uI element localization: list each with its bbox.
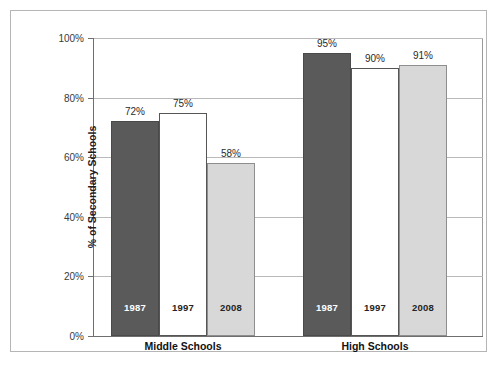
bar-year-label: 1987 [112,302,158,313]
bar-high-schools-2008[interactable]: 2008 [399,65,447,336]
y-tick-label: 20% [64,271,84,282]
bar-middle-schools-2008[interactable]: 2008 [207,163,255,336]
bar-high-schools-1997[interactable]: 1997 [351,68,399,336]
group-label-high-schools: High Schools [341,340,408,352]
y-tick-label: 60% [64,152,84,163]
bar-year-label: 1997 [160,302,206,313]
bar-middle-schools-1997[interactable]: 1997 [159,113,207,337]
bar-year-label: 2008 [400,302,446,313]
chart-canvas: 0%20%40%60%80%100% % of Secondary School… [0,0,497,366]
plot-area: 0%20%40%60%80%100% % of Secondary School… [93,38,483,336]
gridline [93,38,483,39]
bar-value-label: 75% [173,98,193,109]
bar-year-label: 1987 [304,302,350,313]
plot-right-border [482,38,483,336]
x-axis-line [93,336,483,337]
y-tick-label: 100% [58,33,84,44]
bar-value-label: 91% [413,50,433,61]
y-axis-title: % of Secondary Schools [86,126,98,249]
y-tick-label: 40% [64,211,84,222]
y-tick-label: 0% [70,331,84,342]
bar-high-schools-1987[interactable]: 1987 [303,53,351,336]
bar-value-label: 58% [221,148,241,159]
group-label-middle-schools: Middle Schools [144,340,221,352]
y-tick-label: 80% [64,92,84,103]
bar-middle-schools-1987[interactable]: 1987 [111,121,159,336]
bar-value-label: 72% [125,106,145,117]
bar-year-label: 2008 [208,302,254,313]
chart-frame: 0%20%40%60%80%100% % of Secondary School… [10,10,487,352]
bar-value-label: 90% [365,53,385,64]
bar-year-label: 1997 [352,302,398,313]
bar-value-label: 95% [317,38,337,49]
